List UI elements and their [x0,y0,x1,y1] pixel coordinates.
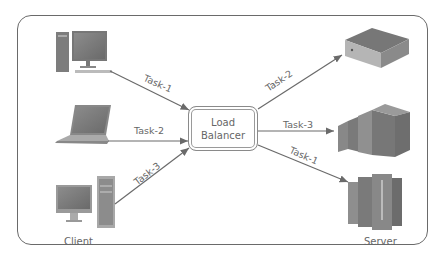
load-balancer-label-line2: Balancer [201,129,245,142]
all-in-one-computer-icon [56,176,115,228]
laptop-icon [55,105,111,144]
load-balancer-label-line1: Load [211,116,235,129]
load-balancer-node: Load Balancer [188,106,258,151]
server-2-task-label: Task-3 [283,119,313,130]
tower-server-icon [348,174,402,230]
client-group-label: Client [64,236,93,247]
client-2-task-label: Task-2 [134,125,164,136]
rack-server-icon [345,28,409,68]
blade-server-icon [338,104,410,157]
server-group-label: Server [364,236,397,247]
desktop-pc-icon [56,31,112,73]
